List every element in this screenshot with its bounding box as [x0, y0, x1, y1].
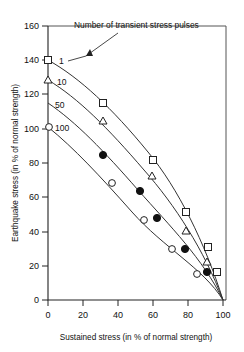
x-tick-0: 0: [45, 310, 50, 320]
series-label-50: 50: [55, 100, 65, 110]
x-axis-ticks: [48, 300, 223, 306]
chart-figure: 160 140 120 100 80 60 40 20 0 0 20 40 60…: [0, 0, 244, 352]
y-axis-ticks: [42, 26, 48, 300]
series-curves: [48, 60, 223, 300]
annotation-label: Number of transient stress pulses: [74, 20, 199, 30]
curve-series-10: [48, 80, 223, 300]
series-label-100: 100: [55, 123, 70, 133]
y-tick-140: 140: [24, 55, 39, 65]
x-tick-40: 40: [113, 310, 123, 320]
markers-series-50: [99, 151, 210, 275]
x-axis-title: Sustained stress (in % of normal strengt…: [60, 333, 213, 342]
y-tick-0: 0: [34, 295, 39, 305]
x-tick-80: 80: [183, 310, 193, 320]
y-tick-100: 100: [24, 124, 39, 134]
y-tick-60: 60: [29, 192, 39, 202]
x-tick-100: 100: [215, 310, 230, 320]
series-label-1: 1: [59, 56, 64, 66]
plot-frame: [48, 26, 226, 300]
x-tick-20: 20: [78, 310, 88, 320]
y-tick-20: 20: [29, 261, 39, 271]
series-label-10: 10: [57, 77, 67, 87]
annotation-arrow-icon: [86, 49, 93, 56]
y-tick-160: 160: [24, 21, 39, 31]
markers-series-10: [44, 76, 211, 265]
x-tick-60: 60: [148, 310, 158, 320]
y-tick-120: 120: [24, 89, 39, 99]
series-1-leader-line: [68, 56, 86, 61]
y-tick-80: 80: [29, 158, 39, 168]
axis-lines: [48, 26, 226, 300]
chart-svg: 160 140 120 100 80 60 40 20 0 0 20 40 60…: [0, 0, 244, 352]
y-axis-title: Earthquake stress (in % of normal streng…: [11, 84, 20, 242]
markers-series-1: [45, 57, 221, 276]
x-axis-tick-labels: 0 20 40 60 80 100: [45, 310, 230, 320]
y-tick-40: 40: [29, 227, 39, 237]
y-axis-tick-labels: 160 140 120 100 80 60 40 20 0: [24, 21, 39, 305]
curve-series-1: [48, 60, 223, 300]
